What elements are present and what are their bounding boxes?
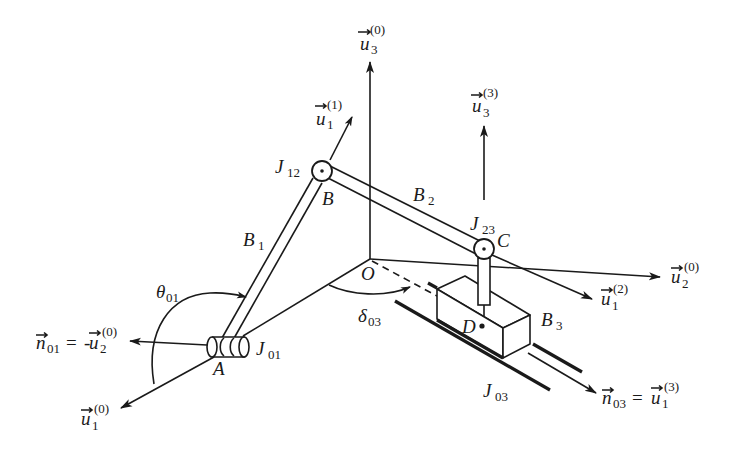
svg-text:u: u (671, 266, 681, 287)
label-point-o: O (361, 263, 375, 284)
svg-text:J: J (483, 380, 493, 401)
svg-text:1: 1 (92, 418, 99, 433)
svg-text:3: 3 (556, 318, 563, 333)
svg-text:=: = (66, 332, 77, 353)
svg-text:(0): (0) (370, 22, 385, 37)
svg-text:B: B (413, 184, 425, 205)
svg-text:J: J (256, 338, 266, 359)
svg-text:(3): (3) (664, 379, 679, 394)
svg-text:1: 1 (612, 298, 619, 313)
label-delta03: δ 03 (358, 305, 381, 329)
label-point-b: B (322, 188, 334, 209)
joint-j01-cylinder (207, 337, 249, 357)
label-u1-2: u 1 (2) (601, 281, 628, 313)
label-u1-1: u 1 (1) (315, 97, 342, 132)
label-point-a: A (211, 358, 225, 379)
svg-text:u: u (601, 288, 611, 309)
svg-text:B: B (243, 229, 255, 250)
svg-text:12: 12 (287, 165, 300, 180)
label-u1-0: u 1 (0) (81, 401, 109, 433)
delta03-angle (329, 285, 410, 294)
svg-text:3: 3 (483, 105, 490, 120)
svg-text:3: 3 (371, 42, 378, 57)
o-to-a-line (243, 259, 370, 336)
label-point-d: D (461, 316, 476, 337)
dashed-slider-guide (372, 261, 437, 296)
svg-text:2: 2 (100, 341, 107, 356)
svg-text:u: u (472, 95, 482, 116)
label-u3-3: u 3 (3) (471, 85, 498, 120)
label-u3-0: u 3 (0) (358, 22, 385, 57)
svg-text:B: B (541, 309, 553, 330)
svg-text:03: 03 (613, 396, 626, 411)
svg-text:03: 03 (495, 389, 508, 404)
u2-0-axis (370, 259, 660, 277)
svg-text:u: u (81, 408, 91, 429)
label-j23: J 23 (470, 213, 495, 237)
svg-text:1: 1 (327, 117, 334, 132)
svg-text:(1): (1) (327, 97, 342, 112)
n01-arrow (130, 341, 207, 345)
svg-text:(2): (2) (613, 281, 628, 296)
svg-text:(0): (0) (94, 401, 109, 416)
label-u2-0: u 2 (0) (671, 259, 699, 291)
label-j03: J 03 (483, 380, 508, 404)
svg-text:1: 1 (662, 396, 669, 411)
svg-text:u: u (316, 108, 326, 129)
label-b3: B 3 (541, 309, 563, 333)
svg-text:J: J (470, 213, 480, 234)
u1-0-arrow (121, 357, 214, 408)
linkage-diagram: u 3 (0) u 1 (1) u 3 (3) J 12 B B 2 J 23 … (0, 0, 734, 454)
label-b2: B 2 (413, 184, 435, 208)
label-j01: J 01 (256, 338, 281, 362)
svg-text:2: 2 (682, 276, 689, 291)
body-b2-link (328, 166, 480, 254)
joint-j23 (474, 239, 494, 259)
label-point-c: C (497, 230, 510, 251)
svg-text:(3): (3) (483, 85, 498, 100)
svg-text:1: 1 (258, 238, 265, 253)
svg-text:2: 2 (428, 193, 435, 208)
joint-j12 (312, 161, 332, 181)
point-d-marker (479, 323, 484, 328)
label-b1: B 1 (243, 229, 265, 253)
svg-text:θ: θ (156, 281, 165, 302)
u1-2-arrow (492, 255, 592, 299)
svg-text:01: 01 (47, 341, 60, 356)
svg-text:u: u (360, 33, 370, 54)
svg-text:(0): (0) (684, 259, 699, 274)
label-theta01: θ 01 (156, 281, 179, 305)
svg-text:J: J (275, 156, 285, 177)
svg-text:01: 01 (268, 347, 281, 362)
body-b1-link (222, 178, 322, 340)
label-n03-equation: n 03 = u 1 (3) (602, 379, 679, 411)
svg-text:(0): (0) (102, 324, 117, 339)
label-j12: J 12 (275, 156, 300, 180)
delta03-arc (329, 285, 410, 294)
svg-text:δ: δ (358, 305, 368, 326)
svg-text:23: 23 (482, 222, 495, 237)
svg-text:03: 03 (368, 314, 381, 329)
svg-text:=: = (632, 387, 643, 408)
svg-text:01: 01 (166, 290, 179, 305)
label-n01-equation: n 01 = - u 2 (0) (36, 324, 117, 356)
